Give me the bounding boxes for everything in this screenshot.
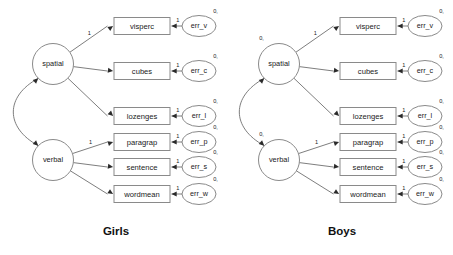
error-path-label-err_s: 1 xyxy=(176,158,179,164)
loading-arrowhead-wordmean xyxy=(333,189,339,194)
error-variance-label-err_v: 0, xyxy=(439,8,444,14)
sem-path-diagram: 1vispercerr_v0,1cubeserr_c0,1lozengeserr… xyxy=(0,0,453,255)
observed-label-lozenges: lozenges xyxy=(127,112,158,121)
error-variance-label-err_l: 0, xyxy=(213,98,218,104)
observed-label-paragrap: paragrap xyxy=(127,138,157,147)
group-title-boys: Boys xyxy=(328,225,356,237)
loading-path-cubes xyxy=(73,67,107,71)
error-arrowhead-err_w xyxy=(172,192,177,197)
error-label-err_w: err_w xyxy=(416,189,435,198)
latent-label-verbal: verbal xyxy=(43,155,63,164)
loading-arrowhead-paragrap xyxy=(107,141,113,146)
error-variance-label-err_w: 0, xyxy=(439,176,444,182)
loading-path-wordmean xyxy=(296,171,333,194)
error-arrowhead-err_v xyxy=(398,24,403,29)
loading-arrowhead-sentence xyxy=(334,164,339,169)
error-path-label-err_w: 1 xyxy=(402,185,405,191)
latent-mean-label-spatial: 0, xyxy=(259,35,264,41)
observed-label-sentence: sentence xyxy=(353,163,384,172)
loading-arrowhead-sentence xyxy=(108,164,113,169)
error-path-label-err_l: 1 xyxy=(402,107,405,113)
observed-label-sentence: sentence xyxy=(127,163,158,172)
error-label-err_p: err_p xyxy=(191,137,208,146)
error-path-label-err_p: 1 xyxy=(176,133,179,139)
latent-label-verbal: verbal xyxy=(269,155,289,164)
error-variance-label-err_p: 0, xyxy=(439,124,444,130)
loading-arrowhead-cubes xyxy=(108,68,113,73)
latent-label-spatial: spatial xyxy=(42,59,64,68)
loading-label-visperc: 1 xyxy=(88,30,91,36)
error-label-err_v: err_v xyxy=(191,21,208,30)
error-path-label-err_v: 1 xyxy=(402,17,405,23)
error-path-label-err_w: 1 xyxy=(176,185,179,191)
error-variance-label-err_l: 0, xyxy=(439,98,444,104)
error-variance-label-err_w: 0, xyxy=(213,176,218,182)
loading-label-paragrap: 1 xyxy=(315,139,318,145)
covariance-path-girls xyxy=(13,78,38,145)
error-arrowhead-err_l xyxy=(398,114,403,119)
observed-label-wordmean: wordmean xyxy=(349,190,385,199)
loading-path-lozenges xyxy=(68,78,108,116)
loading-label-visperc: 1 xyxy=(314,30,317,36)
error-label-err_c: err_c xyxy=(417,66,434,75)
loading-arrowhead-paragrap xyxy=(333,141,339,146)
error-arrowhead-err_w xyxy=(398,192,403,197)
loading-arrowhead-visperc xyxy=(333,26,339,31)
error-variance-label-err_p: 0, xyxy=(213,124,218,130)
group-title-girls: Girls xyxy=(103,225,129,237)
error-path-label-err_c: 1 xyxy=(176,62,179,68)
error-path-label-err_s: 1 xyxy=(402,158,405,164)
group-girls: 1vispercerr_v0,1cubeserr_c0,1lozengeserr… xyxy=(13,8,218,237)
observed-label-wordmean: wordmean xyxy=(123,190,159,199)
error-variance-label-err_s: 0, xyxy=(213,149,218,155)
error-label-err_l: err_l xyxy=(418,111,433,120)
error-arrowhead-err_p xyxy=(398,140,403,145)
error-variance-label-err_c: 0, xyxy=(439,53,444,59)
error-label-err_s: err_s xyxy=(417,162,434,171)
loading-path-wordmean xyxy=(70,171,107,194)
observed-label-visperc: visperc xyxy=(130,22,154,31)
error-arrowhead-err_l xyxy=(172,114,177,119)
error-label-err_p: err_p xyxy=(417,137,434,146)
error-arrowhead-err_p xyxy=(172,140,177,145)
observed-label-cubes: cubes xyxy=(358,67,378,76)
error-variance-label-err_v: 0, xyxy=(213,8,218,14)
latent-label-spatial: spatial xyxy=(268,59,290,68)
loading-path-cubes xyxy=(299,67,333,71)
loading-label-paragrap: 1 xyxy=(89,139,92,145)
error-label-err_w: err_w xyxy=(190,189,209,198)
observed-label-cubes: cubes xyxy=(132,67,152,76)
error-arrowhead-err_v xyxy=(172,24,177,29)
error-label-err_c: err_c xyxy=(191,66,208,75)
error-arrowhead-err_c xyxy=(172,69,177,74)
loading-path-sentence xyxy=(299,163,333,167)
error-label-err_l: err_l xyxy=(192,111,207,120)
error-path-label-err_p: 1 xyxy=(402,133,405,139)
loading-arrowhead-wordmean xyxy=(107,189,113,194)
group-boys: 1vispercerr_v0,1cubeserr_c0,1lozengeserr… xyxy=(239,8,444,237)
loading-arrowhead-cubes xyxy=(334,68,339,73)
error-arrowhead-err_s xyxy=(398,165,403,170)
error-arrowhead-err_c xyxy=(398,69,403,74)
diagram-canvas: 1vispercerr_v0,1cubeserr_c0,1lozengeserr… xyxy=(0,0,453,255)
observed-label-visperc: visperc xyxy=(356,22,380,31)
error-label-err_s: err_s xyxy=(191,162,208,171)
error-label-err_v: err_v xyxy=(417,21,434,30)
loading-path-lozenges xyxy=(294,78,334,116)
error-variance-label-err_c: 0, xyxy=(213,53,218,59)
loading-arrowhead-lozenges xyxy=(334,111,339,116)
observed-label-paragrap: paragrap xyxy=(353,138,383,147)
error-path-label-err_v: 1 xyxy=(176,17,179,23)
loading-arrowhead-lozenges xyxy=(108,111,113,116)
loading-path-sentence xyxy=(73,163,107,167)
error-variance-label-err_s: 0, xyxy=(439,149,444,155)
latent-mean-label-verbal: 0, xyxy=(259,131,264,137)
error-arrowhead-err_s xyxy=(172,165,177,170)
error-path-label-err_c: 1 xyxy=(402,62,405,68)
error-path-label-err_l: 1 xyxy=(176,107,179,113)
loading-arrowhead-visperc xyxy=(107,26,113,31)
observed-label-lozenges: lozenges xyxy=(353,112,384,121)
